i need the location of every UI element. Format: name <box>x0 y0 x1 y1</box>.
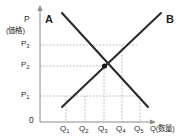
x-tick-q2-sub: 2 <box>85 128 88 134</box>
x-axis-caption: Q(数量) <box>150 125 175 133</box>
origin-label: 0 <box>29 116 34 125</box>
supply-demand-chart: A B P (価格) P3 P2 P1 0 Q1 Q2 Q3 Q4 Q5 Q(数… <box>0 0 183 138</box>
y-axis-name: (価格) <box>6 27 25 35</box>
y-axis-arrow-icon <box>37 5 42 11</box>
curve-a-line <box>62 13 148 107</box>
x-tick-label-q3: Q3 <box>98 125 108 133</box>
x-tick-q5-sub: 5 <box>140 128 143 134</box>
x-tick-label-q2: Q2 <box>79 125 89 133</box>
curve-b-line <box>62 13 161 107</box>
x-tick-label-q4: Q4 <box>116 125 126 133</box>
y-tick-p2-sub: 2 <box>26 64 29 70</box>
x-tick-q1-sub: 1 <box>66 128 69 134</box>
x-tick-label-q1: Q1 <box>60 125 70 133</box>
y-tick-label-p2: P2 <box>21 61 30 69</box>
x-tick-label-q5: Q5 <box>134 125 144 133</box>
x-tick-q3-sub: 3 <box>104 128 107 134</box>
curve-label-b: B <box>166 14 174 25</box>
y-tick-label-p3: P3 <box>21 40 30 48</box>
x-tick-q4-sub: 4 <box>122 128 125 134</box>
y-tick-p3-sub: 3 <box>26 43 29 49</box>
curve-label-a: A <box>45 14 53 25</box>
y-axis-symbol: P <box>24 15 30 24</box>
y-tick-p1-sub: 1 <box>26 94 29 100</box>
y-tick-label-p1: P1 <box>21 91 30 99</box>
equilibrium-point <box>102 63 107 68</box>
